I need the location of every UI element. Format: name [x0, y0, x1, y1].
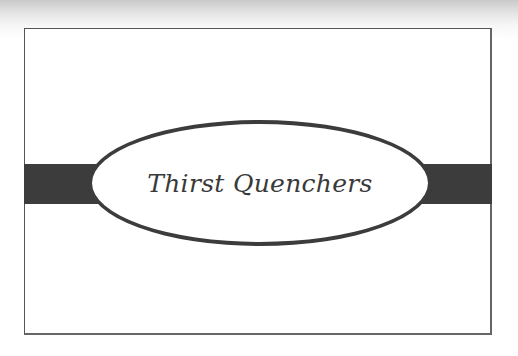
card-title: Thirst Quenchers — [147, 169, 373, 198]
title-oval: Thirst Quenchers — [88, 120, 432, 246]
